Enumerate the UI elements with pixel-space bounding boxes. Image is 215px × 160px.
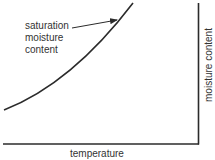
curve-label-line-2: moisture xyxy=(25,32,69,44)
curve-label-line-3: content xyxy=(25,44,69,56)
curve-label: saturation moisture content xyxy=(25,20,69,56)
saturation-moisture-diagram: saturation moisture content temperature … xyxy=(0,0,215,160)
y-axis-label: moisture content xyxy=(203,28,214,102)
curve-label-line-1: saturation xyxy=(25,20,69,32)
x-axis-label: temperature xyxy=(70,148,124,159)
annotation-arrow xyxy=(72,20,117,28)
